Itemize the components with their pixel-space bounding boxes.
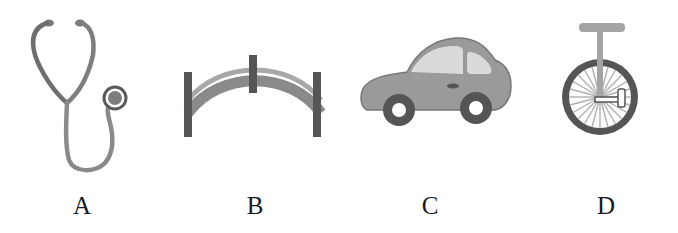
unicycle-icon	[555, 15, 645, 145]
option-label-c: C	[410, 192, 450, 220]
option-label-a: A	[62, 192, 102, 220]
arch-bridge-icon	[175, 45, 335, 145]
car-icon	[355, 30, 515, 140]
figure: A B C	[0, 0, 678, 233]
stethoscope-icon	[25, 15, 135, 175]
option-label-b: B	[235, 192, 275, 220]
option-label-d: D	[586, 192, 626, 220]
